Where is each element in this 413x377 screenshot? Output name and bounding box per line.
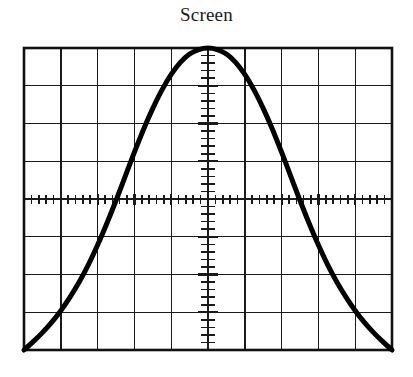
- graticule-canvas: [0, 0, 413, 377]
- oscilloscope-screen-figure: Screen: [0, 0, 413, 377]
